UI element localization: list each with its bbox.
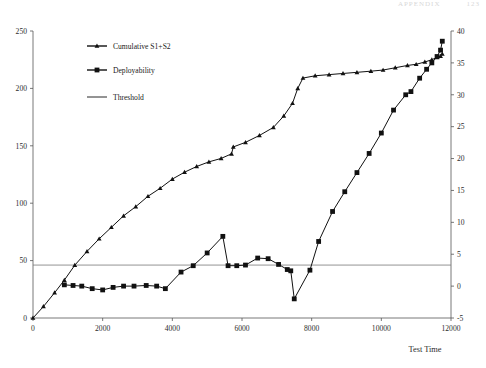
data-point-marker — [367, 151, 372, 156]
y-tick-label-left: 150 — [16, 142, 28, 151]
data-point-marker — [100, 288, 105, 293]
y-tick-label-left: 200 — [16, 84, 28, 93]
data-point-marker — [292, 296, 297, 301]
legend-label-1: Deployability — [113, 66, 155, 75]
y-tick-label-left: 50 — [19, 256, 27, 265]
data-point-marker — [170, 177, 175, 181]
data-point-marker — [290, 101, 295, 105]
y-tick-label-right: 40 — [457, 27, 465, 36]
data-point-marker — [154, 284, 159, 289]
data-point-marker — [429, 60, 434, 65]
data-point-marker — [144, 283, 149, 288]
data-point-marker — [295, 86, 300, 90]
chart-svg: 050100150200250-505101520253035400200040… — [0, 0, 486, 368]
data-point-marker — [90, 286, 95, 291]
data-point-marker — [257, 133, 262, 137]
data-point-marker — [266, 256, 271, 261]
x-axis-title: Test Time — [408, 345, 441, 354]
y-tick-label-left: 0 — [23, 314, 27, 323]
data-point-marker — [62, 282, 67, 287]
series-line-cumulative-s1-s2 — [33, 54, 442, 318]
data-point-marker — [111, 285, 116, 290]
y-tick-label-left: 100 — [16, 199, 28, 208]
y-tick-label-left: 250 — [16, 27, 28, 36]
data-point-marker — [417, 76, 422, 81]
data-point-marker — [146, 194, 151, 198]
data-point-marker — [379, 131, 384, 136]
data-point-marker — [132, 284, 137, 289]
y-tick-label-right: 10 — [457, 218, 465, 227]
y-tick-label-right: 20 — [457, 154, 465, 163]
data-point-marker — [330, 209, 335, 214]
data-point-marker — [440, 39, 445, 44]
data-point-marker — [403, 92, 408, 97]
data-point-marker — [229, 151, 234, 155]
data-point-marker — [288, 268, 293, 273]
x-tick-label: 4000 — [165, 324, 180, 333]
y-tick-label-right: 25 — [457, 122, 465, 131]
data-point-marker — [409, 89, 414, 94]
y-tick-label-right: 35 — [457, 59, 465, 68]
data-point-marker — [342, 189, 347, 194]
x-tick-label: 0 — [31, 324, 35, 333]
x-tick-label: 12000 — [442, 324, 461, 333]
legend-label-2: Threshold — [113, 93, 144, 102]
data-point-marker — [391, 108, 396, 113]
data-point-marker — [220, 234, 225, 239]
x-tick-label: 10000 — [372, 324, 391, 333]
data-point-marker — [355, 170, 360, 175]
data-point-marker — [435, 54, 440, 59]
y-tick-label-right: 0 — [457, 282, 461, 291]
data-point-marker — [234, 263, 239, 268]
data-point-marker — [276, 262, 281, 267]
y-tick-label-right: 30 — [457, 91, 465, 100]
data-point-marker — [205, 251, 210, 256]
x-tick-label: 8000 — [304, 324, 319, 333]
x-tick-label: 6000 — [234, 324, 249, 333]
data-point-marker — [226, 263, 231, 268]
data-point-marker — [424, 67, 429, 72]
y-tick-label-right: 5 — [457, 250, 461, 259]
data-point-marker — [316, 239, 321, 244]
y-tick-label-right: 15 — [457, 186, 465, 195]
legend-label-0: Cumulative S1+S2 — [113, 42, 171, 51]
data-point-marker — [191, 263, 196, 268]
data-point-marker — [163, 286, 168, 291]
y-tick-label-right: -5 — [457, 314, 464, 323]
legend-marker-square — [95, 68, 100, 73]
chart-container: APPENDIX123 050100150200250-505101520253… — [0, 0, 486, 368]
x-tick-label: 2000 — [95, 324, 110, 333]
data-point-marker — [179, 270, 184, 275]
series-line-deployability — [64, 41, 442, 299]
data-point-marker — [308, 268, 313, 273]
data-point-marker — [255, 256, 260, 261]
data-point-marker — [79, 284, 84, 289]
data-point-marker — [71, 283, 76, 288]
data-point-marker — [121, 284, 126, 289]
data-point-marker — [243, 263, 248, 268]
data-point-marker — [438, 48, 443, 53]
